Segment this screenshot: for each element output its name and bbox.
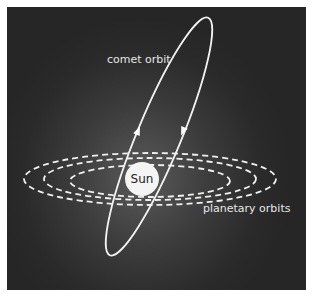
comet-orbit xyxy=(89,9,228,263)
orbit-diagram: Sun comet orbit planetary orbits xyxy=(0,0,313,297)
comet-orbit-label: comet orbit xyxy=(107,53,171,66)
arrow-up-icon xyxy=(133,125,143,136)
sun-label: Sun xyxy=(131,172,154,186)
planetary-orbits-label: planetary orbits xyxy=(203,202,291,215)
